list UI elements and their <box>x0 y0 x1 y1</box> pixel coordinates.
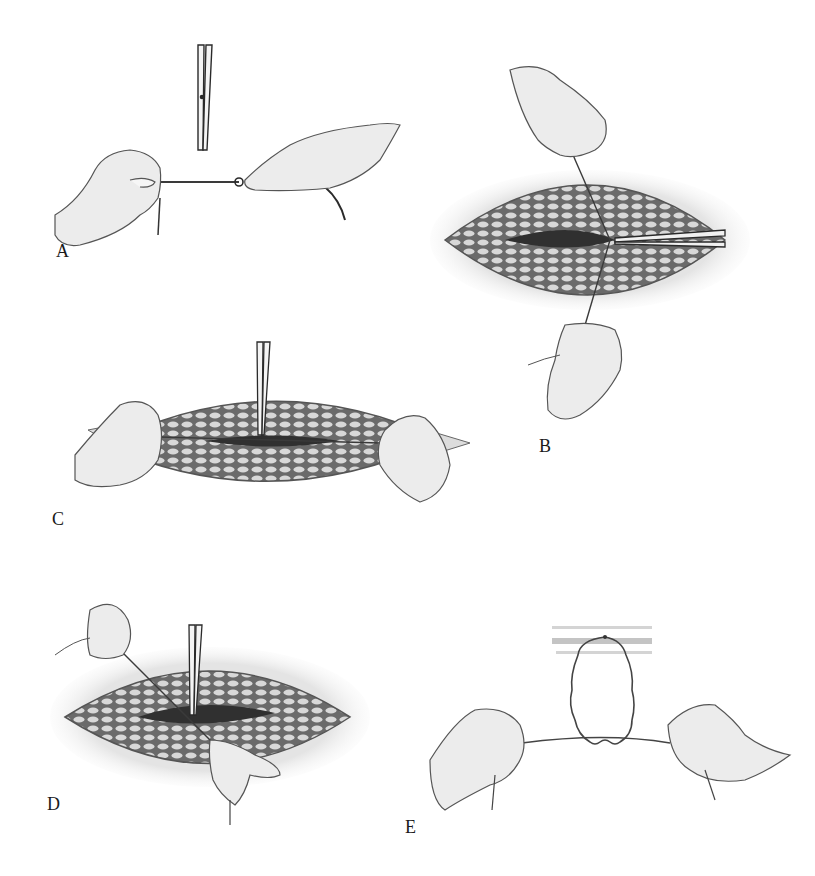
panel-b-illustration <box>420 40 760 470</box>
left-hand-icon <box>55 150 161 246</box>
panel-label-b: B <box>539 437 551 455</box>
panel-a-illustration <box>40 30 420 270</box>
panel-label-c: C <box>52 510 64 528</box>
panel-e-illustration <box>400 610 810 850</box>
panel-c-illustration <box>40 330 460 530</box>
bottom-hand-icon <box>547 323 621 419</box>
panel-c: C <box>40 330 460 530</box>
top-hand-icon <box>510 67 606 157</box>
right-hand-icon <box>378 416 450 502</box>
right-hand-icon <box>668 705 790 782</box>
panel-label-a: A <box>56 242 69 260</box>
suture-strand <box>522 738 670 744</box>
panel-d-illustration <box>30 580 400 860</box>
left-hand-icon <box>430 709 524 810</box>
left-hand-icon <box>75 402 162 487</box>
top-left-hand-icon <box>88 604 131 658</box>
panel-b: B <box>420 40 760 470</box>
panel-label-d: D <box>47 795 60 813</box>
forceps-icon <box>198 45 212 150</box>
right-hand-icon <box>245 124 400 191</box>
panel-e: E <box>400 610 810 850</box>
panel-a: A <box>40 30 420 270</box>
tissue-bands <box>552 626 652 654</box>
panel-label-e: E <box>405 818 416 836</box>
panel-d: D <box>30 580 400 860</box>
